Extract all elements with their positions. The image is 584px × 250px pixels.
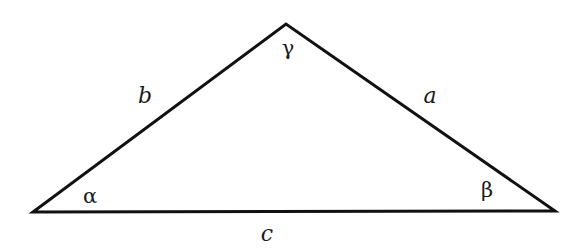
triangle-diagram: b a c α β γ: [0, 0, 584, 250]
side-label-c: c: [261, 223, 273, 245]
angle-label-alpha: α: [83, 186, 97, 207]
angle-label-beta: β: [481, 180, 493, 201]
angle-label-gamma: γ: [282, 38, 295, 59]
side-label-a: a: [423, 85, 436, 107]
side-label-b: b: [138, 85, 152, 107]
